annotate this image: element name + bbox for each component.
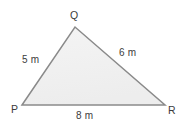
side-length-label-qr: 6 m <box>119 48 136 58</box>
side-length-label-pr: 8 m <box>76 111 93 121</box>
vertex-label-p: P <box>11 104 18 115</box>
vertex-label-q: Q <box>70 10 78 21</box>
triangle-figure: Q P R 5 m 6 m 8 m <box>0 0 186 128</box>
triangle-shape <box>22 27 165 105</box>
side-length-label-pq: 5 m <box>22 55 39 65</box>
vertex-label-r: R <box>168 105 176 116</box>
